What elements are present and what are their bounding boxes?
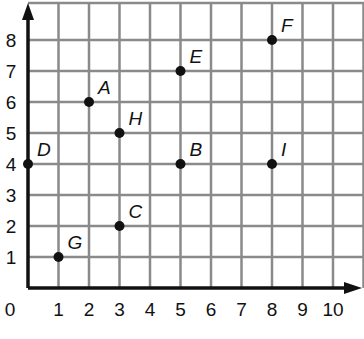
point-label: I xyxy=(281,139,287,160)
point-label: B xyxy=(190,139,203,160)
point-label: C xyxy=(129,201,143,222)
x-tick-label: 1 xyxy=(53,299,64,320)
x-axis-arrow-icon xyxy=(344,282,362,294)
point-marker-icon xyxy=(267,159,277,169)
point-marker-icon xyxy=(23,159,33,169)
y-tick-label: 7 xyxy=(6,61,17,82)
point-label: A xyxy=(97,77,111,98)
x-tick-label: 3 xyxy=(114,299,125,320)
point-label: E xyxy=(190,46,203,67)
x-tick-label: 10 xyxy=(322,299,343,320)
point-label: D xyxy=(37,139,51,160)
x-tick-label: 0 xyxy=(5,299,16,320)
x-tick-label: 8 xyxy=(267,299,278,320)
y-axis-arrow-icon xyxy=(22,3,34,20)
coordinate-plane: 012345678910 12345678 ABCDEFGHI xyxy=(0,0,364,339)
x-tick-label: 7 xyxy=(236,299,247,320)
point-marker-icon xyxy=(176,159,186,169)
x-tick-label: 2 xyxy=(84,299,95,320)
y-tick-label: 8 xyxy=(6,30,17,51)
x-tick-label: 6 xyxy=(206,299,217,320)
y-tick-label: 5 xyxy=(6,123,17,144)
y-tick-label: 4 xyxy=(6,154,17,175)
point-label: H xyxy=(129,108,143,129)
point-label: G xyxy=(68,232,83,253)
point-marker-icon xyxy=(267,35,277,45)
x-tick-label: 5 xyxy=(175,299,186,320)
y-axis-tick-labels: 12345678 xyxy=(6,30,17,268)
x-tick-label: 4 xyxy=(145,299,156,320)
y-tick-label: 6 xyxy=(6,92,17,113)
point-marker-icon xyxy=(176,66,186,76)
point-marker-icon xyxy=(54,252,64,262)
point-marker-icon xyxy=(84,97,94,107)
point-marker-icon xyxy=(115,221,125,231)
point-label: F xyxy=(281,15,294,36)
y-tick-label: 2 xyxy=(6,216,17,237)
y-tick-label: 3 xyxy=(6,185,17,206)
x-tick-label: 9 xyxy=(297,299,308,320)
x-axis-tick-labels: 012345678910 xyxy=(5,299,344,320)
y-tick-label: 1 xyxy=(6,247,17,268)
point-marker-icon xyxy=(115,128,125,138)
